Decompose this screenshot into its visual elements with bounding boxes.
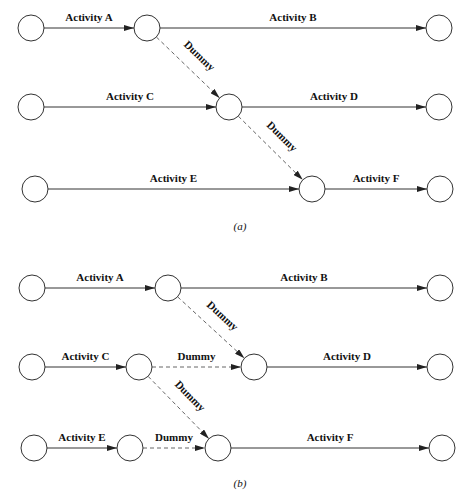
event-node — [205, 435, 231, 461]
event-node — [427, 275, 453, 301]
event-node — [241, 354, 267, 380]
event-node — [18, 15, 44, 41]
event-node — [117, 435, 143, 461]
event-node — [19, 275, 45, 301]
edge-label: Dummy — [155, 431, 193, 443]
edge-label: Activity B — [269, 11, 317, 23]
event-node — [18, 94, 44, 120]
edge-label: Activity C — [62, 350, 110, 362]
edge-label: Dummy — [178, 350, 216, 362]
diagram-a: Activity AActivity BDummyActivity CActiv… — [18, 11, 453, 202]
edge-label: Dummy — [173, 378, 208, 414]
edge-label: Dummy — [265, 119, 301, 155]
edge-label: Activity A — [76, 271, 123, 283]
diagram-b: Activity AActivity BDummyActivity CDummy… — [19, 271, 455, 461]
event-node — [155, 275, 181, 301]
event-node — [134, 15, 160, 41]
event-node — [427, 354, 453, 380]
caption-a: (a) — [234, 220, 247, 233]
edge-label: Activity D — [310, 90, 358, 102]
edge-label: Activity C — [106, 90, 154, 102]
edge-label: Activity F — [307, 431, 354, 443]
event-node — [216, 94, 242, 120]
edge-label: Dummy — [182, 38, 218, 73]
caption-b: (b) — [234, 477, 247, 490]
activity-network-diagram: Activity AActivity BDummyActivity CActiv… — [0, 0, 468, 498]
event-node — [21, 435, 47, 461]
event-node — [427, 176, 453, 202]
event-node — [126, 354, 152, 380]
edge-label: Activity F — [353, 172, 400, 184]
event-node — [299, 176, 325, 202]
edge-label: Activity E — [150, 172, 197, 184]
event-node — [426, 94, 452, 120]
edge-label: Dummy — [205, 298, 241, 333]
edge-label: Activity E — [58, 431, 105, 443]
edge-label: Activity D — [323, 350, 371, 362]
event-node — [19, 354, 45, 380]
event-node — [22, 176, 48, 202]
event-node — [429, 435, 455, 461]
edge-label: Activity B — [280, 271, 328, 283]
event-node — [426, 15, 452, 41]
edge-label: Activity A — [65, 11, 112, 23]
